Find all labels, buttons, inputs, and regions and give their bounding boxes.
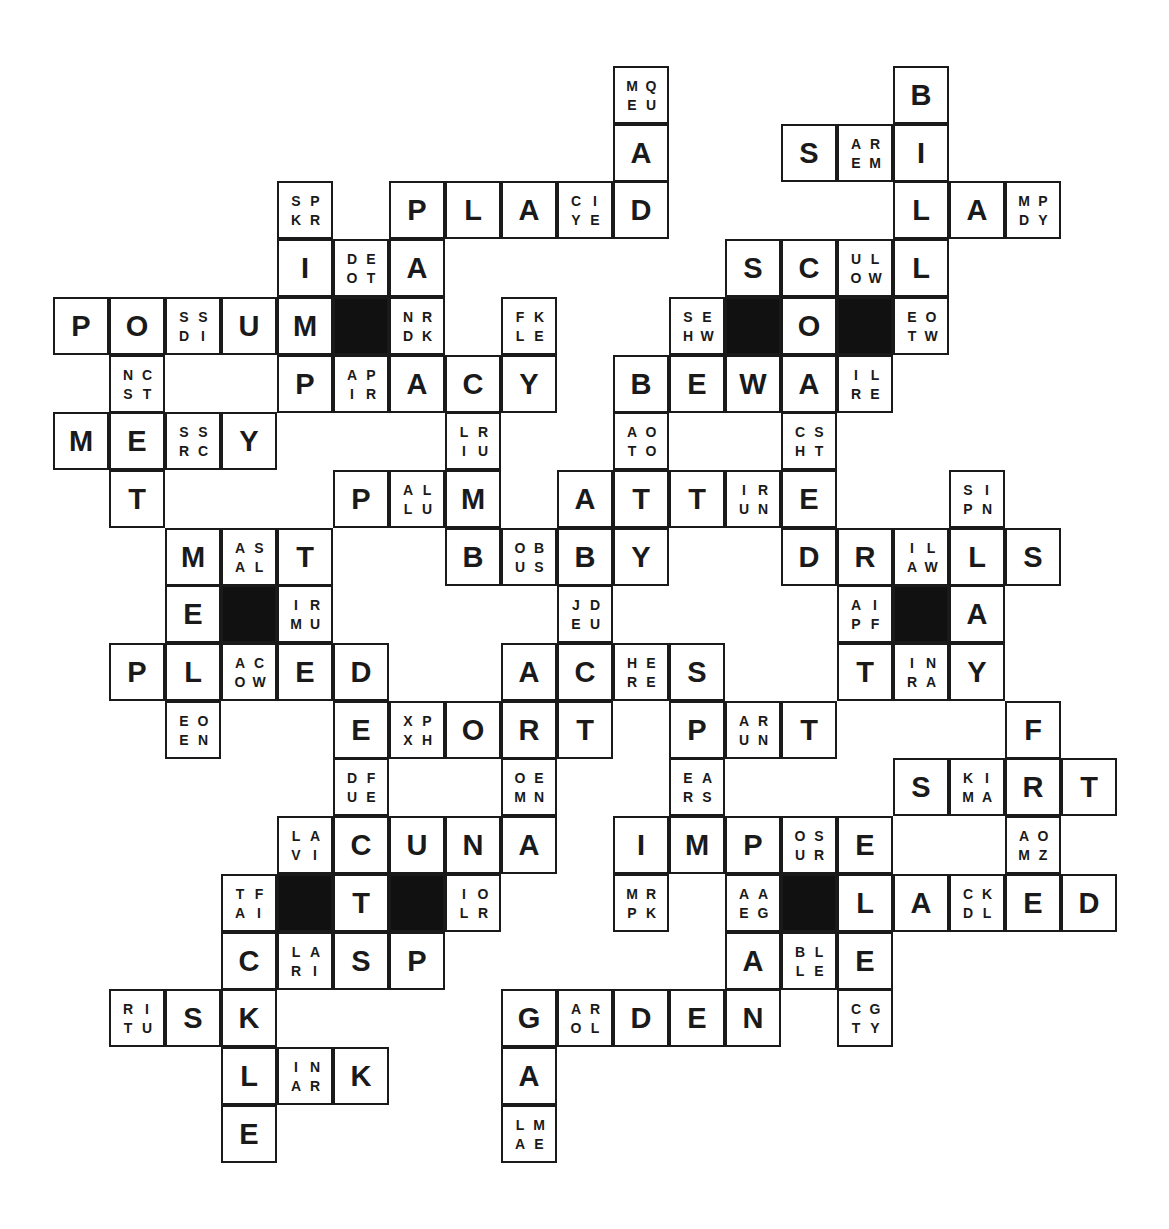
letter-choice-cell[interactable]: APIR	[333, 355, 389, 413]
letter-cell: P	[277, 355, 333, 413]
letter-choice-cell[interactable]: CGTY	[837, 989, 893, 1047]
letter-choice-cell[interactable]: KIMA	[949, 758, 1005, 816]
letter-choice-cell[interactable]: CSHT	[781, 412, 837, 470]
letter-option: A	[233, 656, 247, 670]
letter-choice-cell[interactable]: OBUS	[501, 528, 557, 586]
letter-cell: L	[221, 1047, 277, 1105]
letter-choice-cell[interactable]: ACOW	[221, 643, 277, 701]
letter-choice-cell[interactable]: INAR	[277, 1047, 333, 1105]
letter-choice-cell[interactable]: EOTW	[893, 297, 949, 355]
letter-cell: P	[669, 701, 725, 759]
letter-choice-cell[interactable]: BLLE	[781, 932, 837, 990]
letter-option: N	[121, 368, 135, 382]
letter-option: T	[233, 887, 247, 901]
letter-option: C	[569, 194, 583, 208]
letter-choice-cell[interactable]: ARUN	[725, 701, 781, 759]
letter-choice-cell[interactable]: AOTO	[613, 412, 669, 470]
letter-choice-cell[interactable]: FKLE	[501, 297, 557, 355]
letter-choice-cell[interactable]: TFAI	[221, 874, 277, 932]
letter-cell: M	[445, 470, 501, 528]
letter-option: E	[737, 906, 751, 920]
letter-choice-cell[interactable]: ASAL	[221, 528, 277, 586]
given-letter: L	[895, 241, 947, 295]
letter-choice-cell[interactable]: EOEN	[165, 701, 221, 759]
given-letter: A	[951, 587, 1003, 641]
letter-option: M	[625, 887, 639, 901]
letter-choice-cell[interactable]: XPXH	[389, 701, 445, 759]
letter-option: H	[420, 733, 434, 747]
letter-choice-cell[interactable]: OEMN	[501, 758, 557, 816]
letter-choice-cell[interactable]: MRPK	[613, 874, 669, 932]
letter-cell: E	[277, 643, 333, 701]
letter-choice-cell[interactable]: IOLR	[445, 874, 501, 932]
letter-option: R	[476, 906, 490, 920]
letter-choice-cell[interactable]: IRMU	[277, 585, 333, 643]
letter-choice-cell[interactable]: AROL	[557, 989, 613, 1047]
given-letter: A	[559, 472, 611, 526]
given-letter: T	[783, 703, 835, 757]
letter-choice-cell[interactable]: ILRE	[837, 355, 893, 413]
letter-choice-cell[interactable]: SIPN	[949, 470, 1005, 528]
letter-option: U	[345, 790, 359, 804]
letter-choice-cell[interactable]: HERE	[613, 643, 669, 701]
letter-cell: T	[781, 701, 837, 759]
letter-choice-cell[interactable]: AREM	[837, 124, 893, 182]
letter-choice-cell[interactable]: ALLU	[389, 470, 445, 528]
letter-cell: B	[893, 66, 949, 124]
letter-choice-cell[interactable]: AOMZ	[1005, 816, 1061, 874]
letter-choice-cell[interactable]: LMAE	[501, 1105, 557, 1163]
letter-option: Y	[1036, 213, 1050, 227]
letter-option: I	[980, 483, 994, 497]
letter-choice-cell[interactable]: NRDK	[389, 297, 445, 355]
letter-choice-cell[interactable]: CIYE	[557, 181, 613, 239]
given-letter: E	[223, 1107, 275, 1161]
letter-choice-cell[interactable]: ILAW	[893, 528, 949, 586]
letter-cell: B	[613, 355, 669, 413]
letter-option: O	[345, 271, 359, 285]
letter-choice-cell[interactable]: ULOW	[837, 239, 893, 297]
letter-choice-cell[interactable]: LARI	[277, 932, 333, 990]
letter-option: A	[849, 137, 863, 151]
letter-choice-cell[interactable]: IRUN	[725, 470, 781, 528]
letter-choice-cell[interactable]: AIPF	[837, 585, 893, 643]
letter-cell: D	[613, 989, 669, 1047]
letter-cell: C	[333, 816, 389, 874]
letter-option: S	[196, 425, 210, 439]
letter-option: A	[401, 483, 415, 497]
given-letter: B	[559, 530, 611, 584]
given-letter: O	[783, 299, 835, 353]
letter-option: I	[196, 329, 210, 343]
given-letter: K	[335, 1049, 387, 1103]
letter-choice-cell[interactable]: JDEU	[557, 585, 613, 643]
letter-choice-cell[interactable]: LRIU	[445, 412, 501, 470]
letter-cell: O	[445, 701, 501, 759]
letter-choice-cell[interactable]: EARS	[669, 758, 725, 816]
letter-choice-cell[interactable]: MPDY	[1005, 181, 1061, 239]
letter-choice-cell[interactable]: OSUR	[781, 816, 837, 874]
letter-choice-cell[interactable]: NCST	[109, 355, 165, 413]
letter-choice-cell[interactable]: SSRC	[165, 412, 221, 470]
letter-choice-cell[interactable]: CKDL	[949, 874, 1005, 932]
letter-choice-cell[interactable]: DFUE	[333, 758, 389, 816]
letter-choice-cell[interactable]: LAVI	[277, 816, 333, 874]
letter-choice-cell[interactable]: SEHW	[669, 297, 725, 355]
letter-choice-cell[interactable]: RITU	[109, 989, 165, 1047]
letter-choice-cell[interactable]: MQEU	[613, 66, 669, 124]
given-letter: E	[671, 991, 723, 1045]
given-letter: U	[223, 299, 275, 353]
given-letter: S	[727, 241, 779, 295]
given-letter: T	[839, 645, 891, 699]
letter-choice-cell[interactable]: INRA	[893, 643, 949, 701]
letter-choice-cell[interactable]: SSDI	[165, 297, 221, 355]
letter-choice-cell[interactable]: AAEG	[725, 874, 781, 932]
letter-choice-cell[interactable]: DEOT	[333, 239, 389, 297]
letter-choice-cell[interactable]: SPKR	[277, 181, 333, 239]
letter-option: K	[961, 771, 975, 785]
given-letter: P	[671, 703, 723, 757]
letter-option: I	[588, 194, 602, 208]
black-cell	[781, 874, 837, 932]
given-letter: A	[503, 818, 555, 872]
letter-cell: I	[613, 816, 669, 874]
letter-option: L	[924, 541, 938, 555]
letter-cell: E	[837, 816, 893, 874]
